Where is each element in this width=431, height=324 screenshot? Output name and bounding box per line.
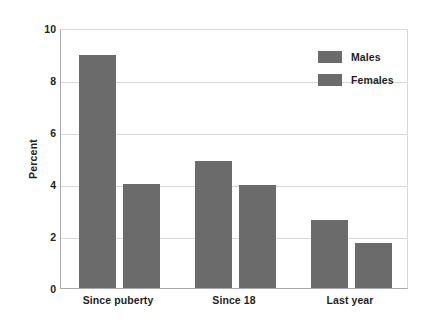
- legend-swatch-icon: [318, 74, 342, 86]
- legend-label: Females: [351, 74, 394, 86]
- bar-chart: Percent 1086420 Since pubertySince 18Las…: [0, 0, 431, 324]
- y-axis-tick-label: 4: [4, 180, 56, 191]
- bar-males-2: [311, 220, 348, 288]
- x-axis-category-label: Since puberty: [60, 294, 176, 307]
- legend: MalesFemales: [318, 45, 394, 91]
- bar-females-1: [239, 185, 276, 288]
- y-axis-tick-label: 2: [4, 232, 56, 243]
- bar-males-1: [195, 161, 232, 288]
- legend-item: Males: [318, 45, 394, 68]
- bar-males-0: [79, 55, 116, 288]
- legend-item: Females: [318, 68, 394, 91]
- y-axis-tick-label: 0: [4, 284, 56, 295]
- y-axis-ticks: 1086420: [0, 29, 56, 289]
- legend-label: Males: [351, 51, 381, 63]
- x-axis-category-label: Since 18: [176, 294, 292, 307]
- bar-females-0: [123, 184, 160, 288]
- y-axis-tick-label: 8: [4, 76, 56, 87]
- y-axis-tick-label: 10: [4, 24, 56, 35]
- y-axis-tick-label: 6: [4, 128, 56, 139]
- bar-females-2: [355, 243, 392, 289]
- x-axis-category-label: Last year: [292, 294, 408, 307]
- legend-swatch-icon: [318, 51, 342, 63]
